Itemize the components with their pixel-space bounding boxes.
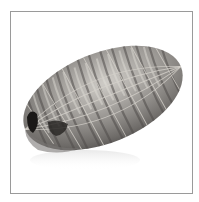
roast-photo (0, 0, 199, 202)
drop-shadow (30, 150, 140, 170)
